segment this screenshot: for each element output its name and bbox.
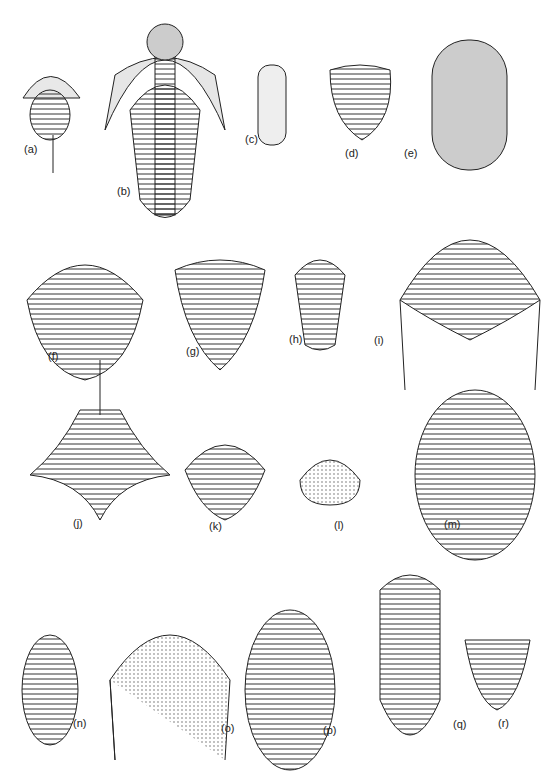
trilobite-illustrations [0,0,558,779]
label-f: (f) [48,350,58,362]
trilobite-d [330,65,391,140]
trilobite-e [432,40,507,170]
label-m: (m) [444,518,461,530]
label-b: (b) [117,185,130,197]
label-h: (h) [289,333,302,345]
trilobite-c [258,65,286,145]
trilobite-f [27,265,143,380]
trilobite-p [245,610,335,770]
trilobite-m [415,390,535,560]
label-k: (k) [209,520,222,532]
trilobite-n [22,635,78,745]
trilobite-a [23,77,80,174]
trilobite-r [465,640,530,710]
trilobite-o [110,635,230,760]
label-q: (q) [453,718,466,730]
trilobite-q [380,575,440,735]
label-g: (g) [186,345,199,357]
label-c: (c) [245,133,258,145]
label-p: (p) [323,724,336,736]
trilobite-j [30,410,170,520]
label-o: (o) [221,722,234,734]
trilobite-k [185,445,265,520]
trilobite-i [400,240,540,340]
label-i: (i) [374,334,384,346]
trilobite-plate: (a) (b) (c) (d) (e) (f) (g) (h) (i) (j) … [0,0,558,779]
label-r: (r) [498,717,509,729]
trilobite-l [300,460,360,505]
label-a: (a) [24,143,37,155]
label-e: (e) [404,147,417,159]
label-d: (d) [345,147,358,159]
trilobite-h [295,260,345,350]
label-j: (j) [73,517,83,529]
label-l: (l) [334,519,344,531]
label-n: (n) [73,717,86,729]
